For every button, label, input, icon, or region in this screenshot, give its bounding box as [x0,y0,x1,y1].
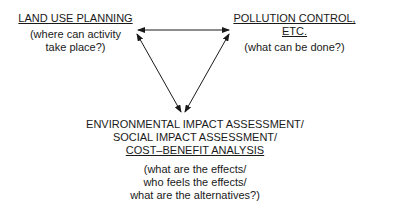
node-impact-assessment: ENVIRONMENTAL IMPACT ASSESSMENT/ SOCIAL … [40,118,350,202]
node-land-use-planning: LAND USE PLANNING (where can activity ta… [18,12,133,54]
node-subtitle-line: who feels the effects/ [40,176,350,189]
node-title-line: ENVIRONMENTAL IMPACT ASSESSMENT/ [40,118,350,131]
node-subtitle-line: take place?) [18,41,133,54]
node-subtitle-line: (what are the effects/ [40,163,350,176]
node-subtitle-line: (where can activity [18,28,133,41]
node-title-underlined: COST–BENEFIT ANALYSIS [40,144,350,157]
node-title: POLLUTION CONTROL, ETC. [222,12,367,38]
node-pollution-control: POLLUTION CONTROL, ETC. (what can be don… [222,12,367,54]
edge-land-use-assessment [137,34,181,112]
node-subtitle-line: what are the alternatives?) [40,189,350,202]
node-subtitle-line: (what can be done?) [222,41,367,54]
node-title: LAND USE PLANNING [18,12,133,25]
node-title-line: SOCIAL IMPACT ASSESSMENT/ [40,131,350,144]
